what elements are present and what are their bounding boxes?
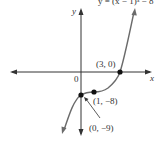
arrow-left-icon xyxy=(10,70,17,75)
point-3-0 xyxy=(117,69,122,74)
point-label-0-m9: (0, −9) xyxy=(89,123,114,133)
x-axis-label: x xyxy=(149,73,154,83)
cubic-curve xyxy=(64,12,134,130)
curve-arrow-down-icon xyxy=(62,127,67,135)
curve-arrow-up-icon xyxy=(132,8,137,16)
point-0-m9 xyxy=(78,92,83,97)
point-label-3-0: (3, 0) xyxy=(96,59,116,69)
arrow-down-icon xyxy=(79,129,84,136)
y-axis-label: y xyxy=(71,6,76,16)
point-label-1-m8: (1, −8) xyxy=(93,96,118,106)
point-1-m8 xyxy=(91,89,96,94)
equation-label: y = (x − 1)³ − 8 xyxy=(98,0,154,6)
arrow-up-icon xyxy=(79,8,84,15)
graph: y = (x − 1)³ − 8 y x 0 (3, 0) (1, −8) (0… xyxy=(0,0,162,142)
origin-label: 0 xyxy=(74,74,79,84)
